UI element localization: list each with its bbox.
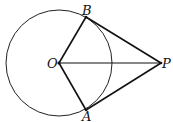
segment-oa	[59, 63, 86, 110]
tangent-ap	[86, 63, 161, 110]
tangent-bp	[86, 17, 161, 63]
label-b: B	[81, 3, 92, 18]
label-p: P	[161, 56, 171, 71]
geometry-diagram: B A O P	[0, 0, 173, 122]
label-a: A	[81, 109, 91, 122]
segment-ob	[59, 17, 86, 63]
label-o: O	[47, 56, 58, 71]
point-o	[57, 61, 60, 64]
